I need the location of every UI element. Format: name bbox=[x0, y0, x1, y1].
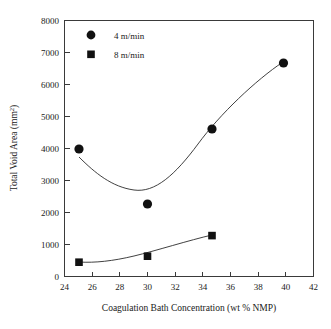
data-point-circle bbox=[143, 199, 152, 208]
series-4-mmin-markers bbox=[74, 58, 288, 208]
y-tick-label: 7000 bbox=[41, 48, 60, 58]
y-tick-label: 3000 bbox=[41, 176, 60, 186]
legend-label-8-mmin: 8 m/min bbox=[114, 50, 145, 60]
fit-curve-4-mmin bbox=[79, 62, 283, 190]
y-tick-label: 0 bbox=[55, 272, 60, 282]
x-tick-label: 34 bbox=[198, 282, 208, 292]
x-tick-label: 28 bbox=[115, 282, 125, 292]
x-tick-label: 42 bbox=[309, 282, 318, 292]
y-axis-title-close: ) bbox=[9, 105, 20, 108]
x-tick-label: 38 bbox=[254, 282, 264, 292]
x-axis-ticks bbox=[65, 272, 314, 277]
x-tick-label: 32 bbox=[171, 282, 180, 292]
chart-canvas: 0 1000 2000 3000 4000 5000 6000 7000 800… bbox=[0, 0, 331, 329]
x-axis-title: Coagulation Bath Concentration (wt % NMP… bbox=[102, 303, 276, 314]
legend-entry-8-mmin: 8 m/min bbox=[87, 50, 145, 60]
chart-figure: 0 1000 2000 3000 4000 5000 6000 7000 800… bbox=[0, 0, 331, 329]
y-axis-title: Total Void Area (mm2) bbox=[8, 105, 20, 191]
legend-entry-4-mmin: 4 m/min bbox=[87, 31, 145, 41]
circle-marker-icon bbox=[87, 31, 96, 40]
plot-frame bbox=[65, 21, 314, 277]
series-8-mmin-markers bbox=[75, 232, 216, 266]
data-point-circle bbox=[279, 58, 288, 67]
y-tick-label: 5000 bbox=[41, 112, 60, 122]
data-point-circle bbox=[207, 124, 216, 133]
x-axis-tick-labels: 24 26 28 30 32 34 36 38 40 42 bbox=[60, 282, 318, 292]
x-tick-label: 24 bbox=[60, 282, 70, 292]
y-axis-tick-labels: 0 1000 2000 3000 4000 5000 6000 7000 800… bbox=[41, 16, 60, 282]
svg-text:Total Void Area (mm2): Total Void Area (mm2) bbox=[8, 105, 20, 191]
y-tick-label: 2000 bbox=[41, 208, 60, 218]
y-axis-title-main: Total Void Area (mm bbox=[9, 111, 20, 192]
chart-legend: 4 m/min 8 m/min bbox=[87, 31, 145, 61]
y-tick-label: 8000 bbox=[41, 16, 60, 26]
y-tick-label: 6000 bbox=[41, 80, 60, 90]
x-tick-label: 36 bbox=[226, 282, 236, 292]
data-point-circle bbox=[74, 144, 83, 153]
legend-label-4-mmin: 4 m/min bbox=[114, 31, 145, 41]
x-tick-label: 30 bbox=[143, 282, 153, 292]
data-point-square bbox=[75, 258, 83, 266]
data-point-square bbox=[144, 252, 152, 260]
square-marker-icon bbox=[87, 51, 95, 59]
data-point-square bbox=[208, 232, 216, 240]
x-tick-label: 40 bbox=[281, 282, 291, 292]
y-tick-label: 4000 bbox=[41, 144, 60, 154]
x-tick-label: 26 bbox=[88, 282, 98, 292]
y-tick-label: 1000 bbox=[41, 240, 60, 250]
y-axis-ticks bbox=[65, 21, 70, 277]
